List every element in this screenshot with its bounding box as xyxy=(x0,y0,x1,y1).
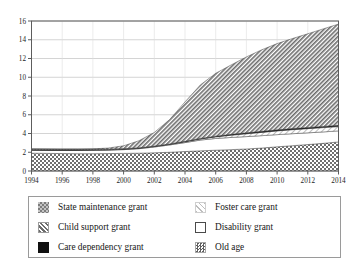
swatch-diagonal-hatch-icon xyxy=(38,222,49,233)
x-tick-label: 2014 xyxy=(331,177,346,185)
y-tick-label: 2 xyxy=(22,149,26,157)
swatch-gray-checker-icon xyxy=(38,202,49,213)
x-axis-ticks: 1994199619982000200220042006200820102012… xyxy=(24,171,346,185)
legend-label: Old age xyxy=(215,242,244,252)
x-tick-label: 1998 xyxy=(86,177,101,185)
legend-label: State maintenance grant xyxy=(58,202,147,212)
chart-canvas: 0246810121416 19941996199820002002200420… xyxy=(0,0,355,192)
legend-label: Foster care grant xyxy=(215,202,277,212)
chart-page: 0246810121416 19941996199820002002200420… xyxy=(0,0,355,271)
legend-label: Disability grant xyxy=(215,222,273,232)
y-tick-label: 10 xyxy=(19,74,27,82)
swatch-solid-black-icon xyxy=(38,242,49,253)
y-tick-label: 6 xyxy=(22,111,26,119)
y-tick-label: 0 xyxy=(22,168,26,176)
legend-item-care-dependency-grant: Care dependency grant xyxy=(29,242,186,253)
x-tick-label: 2000 xyxy=(116,177,131,185)
chart-legend: State maintenance grant Foster care gran… xyxy=(28,196,341,258)
legend-item-child-support-grant: Child support grant xyxy=(29,222,186,233)
x-tick-label: 2012 xyxy=(301,177,316,185)
legend-item-old-age: Old age xyxy=(186,242,342,253)
y-axis-ticks: 0246810121416 xyxy=(19,18,32,176)
y-tick-label: 16 xyxy=(19,18,27,26)
swatch-dense-checker-icon xyxy=(195,242,206,253)
swatch-light-hatch-icon xyxy=(195,202,206,213)
y-tick-label: 14 xyxy=(19,36,27,44)
y-tick-label: 4 xyxy=(22,130,26,138)
legend-item-state-maintenance-grant: State maintenance grant xyxy=(29,202,186,213)
x-tick-label: 2002 xyxy=(147,177,162,185)
x-tick-label: 2004 xyxy=(178,177,193,185)
y-tick-label: 12 xyxy=(19,55,27,63)
y-tick-label: 8 xyxy=(22,93,26,101)
x-tick-label: 2006 xyxy=(209,177,224,185)
legend-label: Child support grant xyxy=(58,222,130,232)
x-tick-label: 2008 xyxy=(239,177,254,185)
swatch-white-icon xyxy=(195,222,206,233)
legend-item-foster-care-grant: Foster care grant xyxy=(186,202,342,213)
stacked-area-chart: 0246810121416 19941996199820002002200420… xyxy=(0,0,355,192)
legend-item-disability-grant: Disability grant xyxy=(186,222,342,233)
x-tick-label: 2010 xyxy=(270,177,285,185)
legend-label: Care dependency grant xyxy=(58,242,144,252)
x-tick-label: 1996 xyxy=(55,177,70,185)
x-tick-label: 1994 xyxy=(24,177,39,185)
